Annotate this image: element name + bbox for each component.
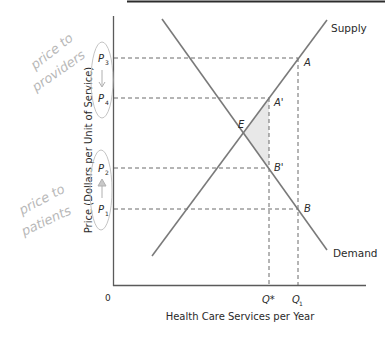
demand-label: Demand xyxy=(333,247,378,259)
point-a-prime-label: A' xyxy=(273,97,284,108)
supply-curve xyxy=(152,20,327,256)
y-axis-title: Price (Dollars per Unit of Service) xyxy=(83,67,94,234)
svg-text:3: 3 xyxy=(105,59,109,66)
point-e-label: E xyxy=(238,119,245,130)
q1-tick-label: Q 1 xyxy=(292,294,303,307)
price-tick-p4: P 4 xyxy=(98,93,109,106)
qstar-tick-label: Q* xyxy=(262,294,275,305)
svg-text:2: 2 xyxy=(105,169,109,176)
svg-text:P: P xyxy=(98,53,105,64)
price-tick-p2: P 2 xyxy=(98,163,109,176)
arrow-up-icon xyxy=(98,179,106,198)
point-b-prime-label: B' xyxy=(274,162,284,173)
chart-canvas: Supply Demand A A' E B' B P 3 P 4 P 2 P … xyxy=(0,0,385,338)
svg-text:1: 1 xyxy=(299,300,303,307)
svg-text:P: P xyxy=(98,93,105,104)
svg-text:1: 1 xyxy=(105,210,109,217)
price-tick-p1: P 1 xyxy=(98,204,109,217)
x-axis-title: Health Care Services per Year xyxy=(166,311,316,322)
supply-label: Supply xyxy=(331,22,367,34)
point-b-label: B xyxy=(304,203,311,214)
origin-label: 0 xyxy=(105,293,111,303)
svg-text:P: P xyxy=(98,163,105,174)
svg-text:4: 4 xyxy=(105,99,109,106)
arrow-down-icon xyxy=(99,70,105,87)
price-tick-p3: P 3 xyxy=(98,53,109,66)
svg-text:P: P xyxy=(98,204,105,215)
deadweight-loss-area xyxy=(243,98,269,168)
point-a-label: A xyxy=(303,57,311,68)
